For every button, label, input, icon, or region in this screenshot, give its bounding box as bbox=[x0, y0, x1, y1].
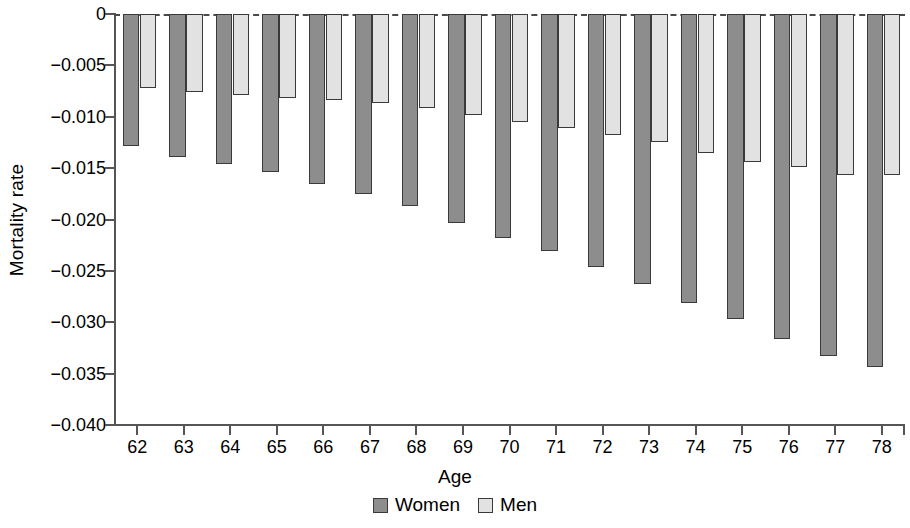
legend-label-men: Men bbox=[500, 494, 537, 516]
y-axis-tick bbox=[105, 64, 114, 66]
y-axis-tick bbox=[105, 270, 114, 272]
x-axis-tick bbox=[881, 426, 883, 435]
bar-group bbox=[626, 14, 673, 425]
x-axis-tick-label: 77 bbox=[825, 437, 845, 458]
x-axis-tick bbox=[183, 426, 185, 435]
x-axis-title: Age bbox=[0, 466, 910, 488]
bar-men-76 bbox=[791, 14, 808, 167]
y-axis-tick-label: −0.030 bbox=[50, 312, 106, 333]
y-axis-tick-label: −0.025 bbox=[50, 260, 106, 281]
x-axis-tick-label: 63 bbox=[174, 437, 194, 458]
x-axis-tick-label: 76 bbox=[779, 437, 799, 458]
y-axis-tick-labels: 0−0.005−0.010−0.015−0.020−0.025−0.030−0.… bbox=[24, 14, 106, 425]
bar-men-62 bbox=[140, 14, 157, 88]
bar-women-69 bbox=[448, 14, 465, 223]
x-axis-tick bbox=[276, 426, 278, 435]
x-axis-tick-label: 70 bbox=[499, 437, 519, 458]
bar-group bbox=[254, 14, 301, 425]
mortality-rate-bar-chart: Mortality rate 0−0.005−0.010−0.015−0.020… bbox=[0, 0, 910, 528]
bar-men-68 bbox=[419, 14, 436, 108]
x-axis-tick bbox=[695, 426, 697, 435]
bar-men-69 bbox=[465, 14, 482, 115]
bar-women-67 bbox=[355, 14, 372, 194]
bar-men-64 bbox=[233, 14, 250, 95]
bar-women-71 bbox=[541, 14, 558, 251]
x-axis-tick bbox=[648, 426, 650, 435]
x-axis-tick-label: 62 bbox=[127, 437, 147, 458]
bar-group bbox=[440, 14, 487, 425]
bar-women-62 bbox=[123, 14, 140, 146]
y-axis-tick-label: −0.015 bbox=[50, 158, 106, 179]
bar-group bbox=[765, 14, 812, 425]
x-axis-tick-label: 66 bbox=[313, 437, 333, 458]
y-axis-tick-label: −0.020 bbox=[50, 209, 106, 230]
x-axis-tick bbox=[741, 426, 743, 435]
x-axis-tick bbox=[322, 426, 324, 435]
bar-group bbox=[858, 14, 905, 425]
bar-men-72 bbox=[605, 14, 622, 135]
y-axis-tick-label: −0.005 bbox=[50, 55, 106, 76]
bar-group bbox=[300, 14, 347, 425]
bar-group bbox=[207, 14, 254, 425]
bar-women-75 bbox=[727, 14, 744, 319]
legend-item-men: Men bbox=[478, 494, 537, 516]
bar-women-70 bbox=[495, 14, 512, 238]
x-axis-tick-labels: 6263646566676869707172737475767778 bbox=[114, 437, 905, 461]
y-axis-tick bbox=[105, 373, 114, 375]
y-axis-tick bbox=[105, 219, 114, 221]
bar-women-73 bbox=[634, 14, 651, 284]
bar-women-77 bbox=[820, 14, 837, 356]
x-axis-tick bbox=[555, 426, 557, 435]
bar-women-72 bbox=[588, 14, 605, 267]
bar-women-74 bbox=[681, 14, 698, 303]
y-axis-tick bbox=[105, 321, 114, 323]
legend-label-women: Women bbox=[395, 494, 460, 516]
bar-men-73 bbox=[651, 14, 668, 142]
bar-men-78 bbox=[884, 14, 901, 175]
x-axis-tick bbox=[136, 426, 138, 435]
bar-group bbox=[672, 14, 719, 425]
x-axis-tick-end bbox=[903, 426, 905, 435]
bar-group bbox=[533, 14, 580, 425]
x-axis-tick-label: 75 bbox=[732, 437, 752, 458]
bar-women-68 bbox=[402, 14, 419, 206]
y-axis-tick bbox=[105, 116, 114, 118]
bar-men-74 bbox=[698, 14, 715, 153]
x-axis-tick-label: 72 bbox=[593, 437, 613, 458]
x-axis-tick-label: 74 bbox=[686, 437, 706, 458]
bar-men-70 bbox=[512, 14, 529, 122]
y-axis-tick-label: −0.040 bbox=[50, 415, 106, 436]
x-axis-tick bbox=[788, 426, 790, 435]
bar-men-65 bbox=[279, 14, 296, 98]
x-axis-tick bbox=[602, 426, 604, 435]
legend-swatch-men-icon bbox=[478, 498, 493, 513]
x-axis-tick-label: 71 bbox=[546, 437, 566, 458]
bar-men-67 bbox=[372, 14, 389, 103]
y-axis-tick bbox=[105, 13, 114, 15]
bar-men-63 bbox=[186, 14, 203, 92]
x-axis-tick-label: 73 bbox=[639, 437, 659, 458]
x-axis-tick bbox=[834, 426, 836, 435]
chart-legend: Women Men bbox=[0, 494, 910, 516]
bar-women-63 bbox=[169, 14, 186, 157]
bar-group bbox=[161, 14, 208, 425]
bar-group bbox=[719, 14, 766, 425]
bar-group bbox=[579, 14, 626, 425]
x-axis-tick-label: 68 bbox=[406, 437, 426, 458]
x-axis-tick bbox=[462, 426, 464, 435]
bar-women-64 bbox=[216, 14, 233, 164]
y-axis-tick bbox=[105, 424, 114, 426]
x-axis-tick bbox=[509, 426, 511, 435]
plot-area bbox=[114, 14, 905, 425]
legend-item-women: Women bbox=[373, 494, 460, 516]
x-axis-tick bbox=[369, 426, 371, 435]
bar-men-71 bbox=[558, 14, 575, 128]
x-axis-tick-label: 65 bbox=[267, 437, 287, 458]
bar-group bbox=[486, 14, 533, 425]
y-axis-tick-label: −0.010 bbox=[50, 106, 106, 127]
bar-women-65 bbox=[262, 14, 279, 172]
x-axis-tick bbox=[229, 426, 231, 435]
bar-men-75 bbox=[744, 14, 761, 162]
y-axis-tick bbox=[105, 167, 114, 169]
bar-women-76 bbox=[774, 14, 791, 339]
